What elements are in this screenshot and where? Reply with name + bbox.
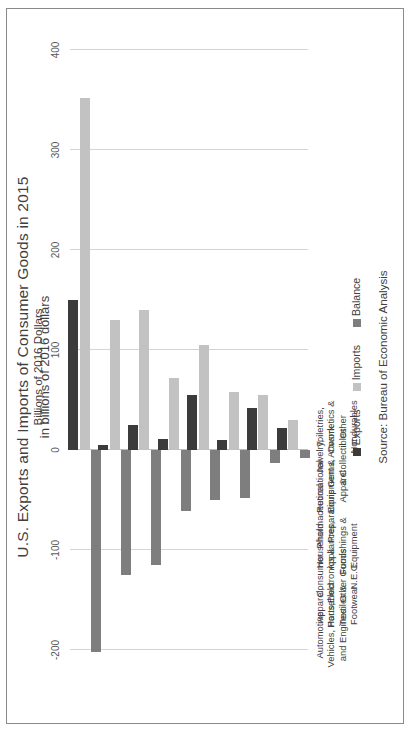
axis-tick--100: -100 (50, 540, 61, 560)
bar-imports[interactable] (199, 345, 209, 450)
chart-rotation-wrapper: U.S. Exports and Imports of Consumer Goo… (7, 9, 405, 725)
bar-imports[interactable] (288, 420, 298, 450)
legend-item[interactable]: Balance (350, 278, 362, 327)
legend-label: Balance (350, 278, 362, 316)
bar-exports[interactable] (187, 395, 197, 450)
axis-tick-400: 400 (50, 42, 61, 59)
bar-exports[interactable] (217, 440, 227, 450)
bar-imports[interactable] (229, 392, 239, 450)
value-axis-title: Billions of 2016 Dollars (32, 10, 44, 724)
bar-imports[interactable] (258, 395, 268, 450)
bar-imports[interactable] (110, 320, 120, 450)
bar-exports[interactable] (68, 300, 78, 450)
legend-swatch (353, 383, 361, 391)
legend-swatch (353, 319, 361, 327)
category-label-line: Furnishings & (337, 513, 348, 578)
bar-group (219, 50, 249, 650)
bar-group (70, 50, 100, 650)
bar-exports[interactable] (158, 439, 168, 450)
legend-item[interactable]: Imports (350, 345, 362, 391)
axis-tick-0: 0 (50, 447, 61, 453)
bar-chart: U.S. Exports and Imports of Consumer Goo… (8, 10, 404, 724)
category-label-line: Other (337, 394, 348, 459)
value-axis-title-wrapper: Billions of 2016 Dollars (12, 10, 32, 724)
axis-tick-200: 200 (50, 242, 61, 259)
axis-tick-300: 300 (50, 142, 61, 159)
bar-exports[interactable] (128, 425, 138, 450)
bar-imports[interactable] (80, 98, 90, 450)
axis-tick--200: -200 (50, 640, 61, 660)
legend-swatch (353, 448, 361, 456)
plot-area (70, 50, 308, 650)
chart-legend: ExportsImportsBalance (350, 10, 362, 724)
bar-group (278, 50, 308, 650)
legend-label: Imports (350, 345, 362, 380)
category-label-line: Cosmetics & (325, 394, 336, 459)
legend-label: Exports (350, 409, 362, 445)
value-axis-tick-labels: 4003002001000-100-200 (50, 50, 66, 650)
category-axis-labels: AutomotiveVehicles, Parts,and EnginesApp… (312, 50, 382, 650)
bar-balance[interactable] (300, 450, 310, 458)
chart-frame-border: U.S. Exports and Imports of Consumer Goo… (6, 8, 404, 724)
legend-item[interactable]: Exports (350, 409, 362, 456)
bar-imports[interactable] (169, 378, 179, 450)
category-label-line: Toiletries, (314, 394, 325, 459)
bar-group (130, 50, 160, 650)
bar-group (189, 50, 219, 650)
bar-group (159, 50, 189, 650)
bar-group (249, 50, 279, 650)
bar-exports[interactable] (247, 408, 257, 450)
bar-group (100, 50, 130, 650)
screenshot-page: U.S. Exports and Imports of Consumer Goo… (0, 0, 412, 734)
bar-exports[interactable] (277, 428, 287, 450)
bar-imports[interactable] (139, 310, 149, 450)
axis-tick-100: 100 (50, 342, 61, 359)
source-note: Source: Bureau of Economic Analysis (376, 10, 389, 724)
bar-exports[interactable] (98, 445, 108, 450)
